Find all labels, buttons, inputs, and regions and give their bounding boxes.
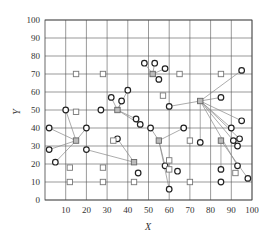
y-tick-label: 60	[31, 87, 41, 97]
circle-marker	[152, 60, 158, 66]
y-tick-label: 0	[36, 195, 41, 205]
y-tick-label: 10	[31, 177, 41, 187]
x-tick-label: 30	[103, 205, 113, 215]
circle-marker	[231, 138, 237, 144]
x-tick-label: 70	[185, 205, 195, 215]
x-axis-ticks: 102030405060708090100	[61, 205, 259, 215]
square-open-marker	[100, 179, 105, 184]
x-tick-label: 60	[165, 205, 175, 215]
connection-line	[200, 101, 239, 139]
square-open-marker	[187, 138, 192, 143]
square-open-marker	[160, 93, 165, 98]
square-open-marker	[131, 179, 136, 184]
circle-marker	[108, 95, 114, 101]
square-selected-marker	[150, 71, 155, 76]
square-open-marker	[73, 71, 78, 76]
circle-marker	[218, 167, 224, 173]
circle-marker	[98, 107, 104, 113]
connection-line	[49, 128, 76, 141]
circle-marker	[229, 125, 235, 131]
circle-marker	[125, 87, 131, 93]
square-open-marker	[187, 179, 192, 184]
circle-marker	[197, 140, 203, 146]
square-open-marker	[100, 165, 105, 170]
y-tick-label: 90	[31, 33, 41, 43]
square-open-marker	[67, 165, 72, 170]
square-selected-marker	[218, 138, 223, 143]
circle-marker	[218, 179, 224, 185]
square-open-marker	[167, 158, 172, 163]
square-open-marker	[167, 167, 172, 172]
connection-line	[200, 101, 241, 121]
y-tick-label: 20	[31, 159, 41, 169]
y-tick-label: 40	[31, 123, 41, 133]
circle-marker	[84, 147, 90, 153]
square-selected-marker	[73, 138, 78, 143]
circle-marker	[156, 77, 162, 83]
y-tick-label: 30	[31, 141, 41, 151]
circle-marker	[166, 104, 172, 110]
circle-marker	[235, 143, 241, 149]
square-selected-marker	[156, 138, 161, 143]
circle-marker	[133, 116, 139, 122]
circle-marker	[137, 122, 143, 128]
scatter-chart: 102030405060708090100 010203040506070809…	[0, 0, 274, 238]
y-tick-label: 70	[31, 69, 41, 79]
circle-marker	[237, 136, 243, 142]
x-tick-label: 40	[123, 205, 133, 215]
x-tick-label: 20	[82, 205, 92, 215]
square-selected-marker	[131, 160, 136, 165]
y-tick-label: 80	[31, 51, 41, 61]
circle-marker	[245, 176, 251, 182]
circle-marker	[239, 68, 245, 74]
circle-marker	[119, 98, 125, 104]
circle-marker	[63, 107, 69, 113]
square-open-marker	[73, 109, 78, 114]
x-tick-label: 10	[61, 205, 71, 215]
x-tick-label: 100	[245, 205, 259, 215]
circle-marker	[135, 170, 141, 176]
connection-line	[159, 128, 184, 141]
circle-marker	[175, 168, 181, 174]
connection-line	[86, 150, 134, 163]
square-open-marker	[177, 71, 182, 76]
connection-line	[169, 101, 200, 106]
circle-marker	[239, 118, 245, 124]
connection-line	[200, 101, 233, 141]
square-open-marker	[233, 170, 238, 175]
circle-marker	[148, 125, 154, 131]
square-open-marker	[67, 179, 72, 184]
circle-marker	[218, 95, 224, 101]
circle-marker	[142, 60, 148, 66]
circle-marker	[46, 125, 52, 131]
circle-marker	[84, 125, 90, 131]
circle-marker	[46, 147, 52, 153]
y-axis-ticks: 0102030405060708090100	[27, 15, 41, 205]
square-selected-marker	[115, 107, 120, 112]
circle-marker	[162, 66, 168, 72]
y-axis-label: Y	[11, 108, 22, 115]
square-open-marker	[100, 71, 105, 76]
x-tick-label: 90	[227, 205, 237, 215]
x-tick-label: 80	[206, 205, 216, 215]
y-tick-label: 100	[27, 15, 41, 25]
circle-marker	[181, 125, 187, 131]
circle-marker	[166, 186, 172, 192]
square-selected-marker	[198, 98, 203, 103]
square-open-marker	[111, 138, 116, 143]
x-tick-label: 50	[144, 205, 154, 215]
y-tick-label: 50	[31, 105, 41, 115]
x-axis-label: X	[144, 221, 152, 232]
circle-marker	[235, 163, 241, 169]
square-open-marker	[218, 71, 223, 76]
circle-marker	[53, 159, 59, 165]
